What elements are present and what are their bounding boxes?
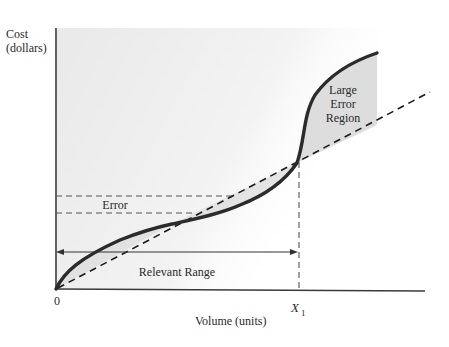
large-error-label-line1: Large <box>329 83 357 97</box>
origin-label: 0 <box>54 294 60 308</box>
x-axis-label: Volume (units) <box>195 314 266 328</box>
large-error-label-line2: Error <box>330 97 355 111</box>
x1-label-main: X <box>290 300 300 315</box>
x1-label: X1 <box>290 300 305 318</box>
x1-label-subscript: 1 <box>301 308 306 318</box>
large-error-label-line3: Region <box>326 111 361 125</box>
relevant-range-label: Relevant Range <box>139 265 215 279</box>
x-axis <box>56 289 425 291</box>
y-axis-label-line2: (dollars) <box>6 41 47 55</box>
cost-volume-chart: Cost (dollars) Large Error Region Error … <box>0 0 449 347</box>
error-label: Error <box>102 198 127 212</box>
y-axis-label-line1: Cost <box>6 27 29 41</box>
